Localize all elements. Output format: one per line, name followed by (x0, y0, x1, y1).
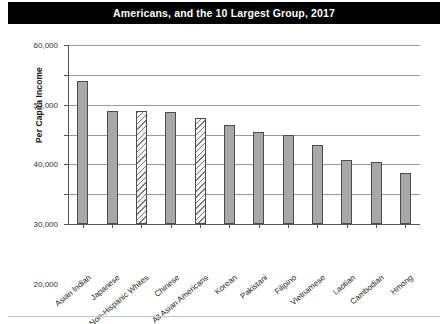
gridline (68, 105, 420, 106)
x-tick-mark (288, 224, 289, 228)
x-tick-mark (83, 224, 84, 228)
y-tick-mark: 20,000 (64, 164, 69, 165)
y-tick-mark: 10,000 (64, 194, 69, 195)
bar[interactable] (400, 173, 411, 224)
bar[interactable] (371, 162, 382, 224)
y-tick-mark: 40,000 (64, 105, 69, 106)
bar[interactable] (341, 160, 352, 224)
y-tick-label: 20,000 (34, 279, 58, 288)
y-tick-mark: 60,000 (64, 45, 69, 46)
x-tick-mark (405, 224, 406, 228)
x-tick-label: Asian Indian (53, 273, 93, 308)
bar[interactable] (312, 145, 323, 224)
plot-area: 010,00020,00030,00040,00050,00060,000 As… (68, 45, 420, 224)
x-tick-mark (229, 224, 230, 228)
y-tick-label: 60,000 (34, 41, 58, 50)
y-tick-label: 50,000 (34, 100, 58, 109)
y-tick-mark: 50,000 (64, 75, 69, 76)
x-tick-mark (112, 224, 113, 228)
gridline (68, 194, 420, 195)
gridline (68, 135, 420, 136)
bar[interactable] (253, 132, 264, 224)
gridline (68, 224, 420, 225)
chart-figure: Americans, and the 10 Largest Group, 201… (0, 0, 448, 324)
x-tick-label: Laotian (331, 273, 357, 297)
bar[interactable] (77, 81, 88, 224)
x-tick-mark (317, 224, 318, 228)
x-tick-label: Korean (213, 273, 239, 296)
bar[interactable] (165, 112, 176, 224)
x-tick-mark (376, 224, 377, 228)
bar[interactable] (107, 111, 118, 224)
bar[interactable] (136, 111, 147, 224)
x-tick-mark (200, 224, 201, 228)
y-tick-mark: 30,000 (64, 135, 69, 136)
y-tick-label: 40,000 (34, 160, 58, 169)
x-tick-mark (171, 224, 172, 228)
bottom-divider (8, 316, 440, 317)
bar[interactable] (195, 118, 206, 224)
y-tick-label: 30,000 (34, 220, 58, 229)
x-tick-mark (347, 224, 348, 228)
gridline (68, 164, 420, 165)
x-tick-label: Pakistani (238, 273, 269, 301)
gridline (68, 45, 420, 46)
bar[interactable] (283, 135, 294, 224)
x-tick-mark (141, 224, 142, 228)
gridline (68, 75, 420, 76)
plot-wrapper: Per Capita Income 010,00020,00030,00040,… (0, 0, 448, 324)
x-tick-label: Hmong (389, 273, 415, 296)
x-tick-label: Filipino (273, 273, 298, 296)
x-tick-mark (259, 224, 260, 228)
bar[interactable] (224, 125, 235, 224)
y-tick-mark: 0 (64, 224, 69, 225)
